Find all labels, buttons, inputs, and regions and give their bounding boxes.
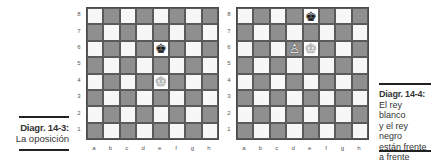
square-g1 (185, 123, 201, 139)
square-h7 (202, 24, 218, 40)
square-b5 (103, 57, 119, 73)
rank-label: 5 (75, 60, 83, 66)
square-h7 (352, 24, 368, 40)
square-g3 (185, 90, 201, 106)
square-a4 (87, 74, 103, 90)
file-label: c (119, 145, 135, 151)
square-e2 (153, 106, 169, 122)
black-king-icon: ♚ (304, 9, 318, 23)
square-h8 (352, 8, 368, 24)
square-c3 (270, 90, 286, 106)
square-c5 (120, 57, 136, 73)
file-label: a (86, 145, 102, 151)
square-g1 (335, 123, 351, 139)
file-label: b (252, 145, 268, 151)
square-h8 (202, 8, 218, 24)
square-d8 (136, 8, 152, 24)
square-f2 (319, 106, 335, 122)
square-c8 (270, 8, 286, 24)
square-e1 (153, 123, 169, 139)
black-king-icon: ♚ (154, 42, 168, 56)
square-b2 (253, 106, 269, 122)
square-b1 (103, 123, 119, 139)
square-g4 (185, 74, 201, 90)
square-a2 (237, 106, 253, 122)
rank-label: 8 (75, 11, 83, 17)
square-f1 (169, 123, 185, 139)
chessboard: ♚♔ (86, 7, 219, 140)
caption-title: Diagr. 14-3: (0, 122, 69, 133)
square-g6 (335, 41, 351, 57)
square-a1 (87, 123, 103, 139)
rank-label: 1 (225, 126, 233, 132)
square-d5 (136, 57, 152, 73)
rank-label: 6 (75, 44, 83, 50)
square-f5 (169, 57, 185, 73)
square-f4 (319, 74, 335, 90)
square-d6: ♙ (286, 41, 302, 57)
square-c2 (120, 106, 136, 122)
square-b6 (253, 41, 269, 57)
file-label: e (302, 145, 318, 151)
square-g8 (335, 8, 351, 24)
square-c4 (270, 74, 286, 90)
square-e8 (153, 8, 169, 24)
square-g8 (185, 8, 201, 24)
square-h2 (202, 106, 218, 122)
square-h4 (202, 74, 218, 90)
square-f4 (169, 74, 185, 90)
square-c1 (270, 123, 286, 139)
square-c1 (120, 123, 136, 139)
square-c8 (120, 8, 136, 24)
square-b7 (103, 24, 119, 40)
rank-label: 6 (225, 44, 233, 50)
square-d8 (286, 8, 302, 24)
caption-line: y el rey negro (379, 121, 431, 142)
rank-label: 4 (225, 77, 233, 83)
square-a3 (87, 90, 103, 106)
square-d7 (136, 24, 152, 40)
file-label: g (334, 145, 350, 151)
caption-line: La oposición (0, 133, 69, 144)
square-e8: ♚ (303, 8, 319, 24)
square-e6: ♔ (303, 41, 319, 57)
square-a7 (87, 24, 103, 40)
file-label: c (269, 145, 285, 151)
rank-label: 8 (225, 11, 233, 17)
square-e7 (153, 24, 169, 40)
square-h3 (352, 90, 368, 106)
caption-rule-bottom (19, 149, 69, 151)
square-g7 (185, 24, 201, 40)
square-f8 (169, 8, 185, 24)
file-label: h (201, 145, 217, 151)
square-b8 (103, 8, 119, 24)
file-label: b (102, 145, 118, 151)
square-h6 (202, 41, 218, 57)
square-f7 (319, 24, 335, 40)
square-e4: ♔ (153, 74, 169, 90)
square-g5 (335, 57, 351, 73)
square-h5 (202, 57, 218, 73)
square-c7 (120, 24, 136, 40)
square-c2 (270, 106, 286, 122)
square-g2 (185, 106, 201, 122)
square-f6 (319, 41, 335, 57)
caption-14-3: Diagr. 14-3: La oposición (0, 122, 69, 144)
square-d4 (136, 74, 152, 90)
rank-label: 1 (75, 126, 83, 132)
square-e5 (303, 57, 319, 73)
square-a5 (237, 57, 253, 73)
square-a1 (237, 123, 253, 139)
square-d3 (136, 90, 152, 106)
square-h6 (352, 41, 368, 57)
file-label: h (351, 145, 367, 151)
square-c4 (120, 74, 136, 90)
file-label: f (168, 145, 184, 151)
square-f7 (169, 24, 185, 40)
square-d5 (286, 57, 302, 73)
square-b6 (103, 41, 119, 57)
square-b4 (253, 74, 269, 90)
square-d6 (136, 41, 152, 57)
square-h4 (352, 74, 368, 90)
rank-label: 7 (75, 28, 83, 34)
